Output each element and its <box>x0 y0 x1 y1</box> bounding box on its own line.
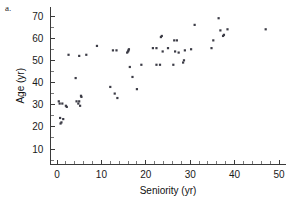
data-point <box>210 47 212 49</box>
x-tick-label: 0 <box>54 169 60 180</box>
x-axis-title: Seniority (yr) <box>140 185 197 196</box>
data-point <box>194 24 196 26</box>
y-tick-label: 60 <box>32 33 44 44</box>
data-point <box>190 48 192 50</box>
data-points-layer <box>58 17 267 124</box>
x-tick-label: 20 <box>140 169 152 180</box>
panel-label: a. <box>5 3 11 13</box>
data-point <box>167 47 169 49</box>
x-tick-label: 40 <box>229 169 241 180</box>
data-point <box>62 118 64 120</box>
data-point <box>61 102 63 104</box>
data-point <box>173 39 175 41</box>
data-point <box>155 64 157 66</box>
data-point <box>80 96 82 98</box>
data-point <box>78 55 80 57</box>
data-point <box>75 100 77 102</box>
y-tick-label: 50 <box>32 55 44 66</box>
y-tick-label: 40 <box>32 77 44 88</box>
data-point <box>129 66 131 68</box>
data-point <box>131 76 133 78</box>
y-axis-title: Age (yr) <box>15 68 26 104</box>
data-point <box>136 88 138 90</box>
data-point <box>59 102 61 104</box>
data-point <box>161 35 163 37</box>
x-axis-major-ticks <box>57 160 279 165</box>
data-point <box>112 49 114 51</box>
data-point <box>128 48 130 50</box>
y-tick-label: 10 <box>32 144 44 155</box>
data-point <box>184 49 186 51</box>
data-point <box>114 92 116 94</box>
data-point <box>159 64 161 66</box>
data-point <box>109 86 111 88</box>
data-point <box>226 28 228 30</box>
data-point <box>75 77 77 79</box>
data-point <box>115 49 117 51</box>
data-point <box>174 50 176 52</box>
data-point <box>140 64 142 66</box>
data-point <box>182 61 184 63</box>
data-point <box>78 100 80 102</box>
data-point <box>59 117 61 119</box>
data-point <box>265 28 267 30</box>
y-tick-label: 30 <box>32 99 44 110</box>
y-axis-minor-ticks <box>50 27 54 160</box>
data-point <box>66 106 68 108</box>
data-point <box>162 50 164 52</box>
scatter-plot-figure: a. 01020304050 10203040506070 Seniority … <box>0 0 302 220</box>
x-tick-label: 10 <box>96 169 108 180</box>
y-tick-label: 70 <box>32 11 44 22</box>
data-point <box>116 97 118 99</box>
data-point <box>223 34 225 36</box>
data-point <box>96 45 98 47</box>
data-point <box>152 47 154 49</box>
data-point <box>155 47 157 49</box>
data-point <box>218 17 220 19</box>
x-axis-tick-labels: 01020304050 <box>54 169 285 180</box>
x-tick-label: 30 <box>185 169 197 180</box>
data-point <box>178 51 180 53</box>
data-point <box>172 64 174 66</box>
data-point <box>67 54 69 56</box>
data-point <box>212 39 214 41</box>
y-tick-label: 20 <box>32 121 44 132</box>
data-point <box>79 105 81 107</box>
data-point <box>183 59 185 61</box>
x-tick-label: 50 <box>273 169 285 180</box>
y-axis-major-ticks <box>50 16 55 149</box>
data-point <box>77 102 79 104</box>
data-point <box>60 121 62 123</box>
data-point <box>58 100 60 102</box>
y-axis-tick-labels: 10203040506070 <box>32 11 44 155</box>
data-point <box>176 39 178 41</box>
scatter-plot-canvas: 01020304050 10203040506070 Seniority (yr… <box>0 0 302 220</box>
x-axis-minor-ticks <box>66 161 270 165</box>
data-point <box>85 54 87 56</box>
data-point <box>219 29 221 31</box>
